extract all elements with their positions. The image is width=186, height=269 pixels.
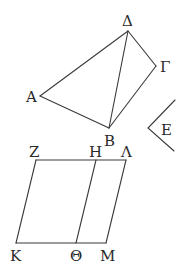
label-mu: Μ	[100, 247, 115, 265]
edge-eta-theta	[76, 160, 96, 243]
label-gamma: Γ	[160, 58, 170, 76]
parallelogram-zlmk	[16, 160, 126, 243]
edge-beta-gamma	[109, 66, 156, 128]
label-delta: Δ	[122, 12, 133, 30]
edge-delta-alpha	[40, 31, 128, 96]
quadrilateral-abgd	[40, 31, 156, 128]
label-alpha: Α	[25, 88, 37, 106]
label-epsilon: Ε	[161, 121, 172, 139]
diagonal-delta-beta	[109, 31, 128, 128]
label-zeta: Ζ	[29, 143, 39, 161]
edge-zeta-kappa	[16, 160, 36, 243]
label-lambda: Λ	[120, 143, 132, 161]
label-kappa: Κ	[10, 247, 22, 265]
label-eta: Η	[89, 143, 102, 161]
edge-alpha-beta	[40, 96, 109, 128]
geometry-diagram: Α Β Γ Δ Ε Ζ Η Λ Κ Θ Μ	[0, 0, 186, 269]
label-beta: Β	[104, 132, 115, 150]
edge-lambda-mu	[106, 160, 126, 243]
edge-gamma-delta	[128, 31, 156, 66]
vertex-labels: Α Β Γ Δ Ε Ζ Η Λ Κ Θ Μ	[10, 12, 172, 265]
label-theta: Θ	[70, 247, 82, 265]
